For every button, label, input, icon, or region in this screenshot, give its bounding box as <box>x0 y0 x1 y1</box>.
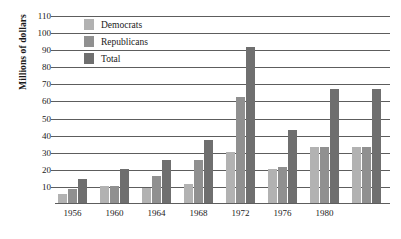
bar-group <box>58 16 87 203</box>
bar-republicans <box>152 176 161 203</box>
x-axis-label: 1956 <box>64 208 82 218</box>
y-axis-tick-label: 40 <box>42 131 51 141</box>
bar-total <box>372 89 381 204</box>
legend-swatch-democrats <box>84 19 94 30</box>
bar-total <box>204 140 213 203</box>
x-axis-label: 1972 <box>232 208 250 218</box>
bar-total <box>246 47 255 203</box>
y-axis-tick-label: 20 <box>42 165 51 175</box>
bar-group <box>184 16 213 203</box>
y-axis-tick-label: 10 <box>42 182 51 192</box>
bar-democrats <box>184 184 193 203</box>
x-axis-label: 1976 <box>274 208 292 218</box>
x-axis-labels: 1956196019641968197219761980 <box>55 208 390 224</box>
x-axis-line <box>55 203 390 204</box>
legend-item-democrats: Democrats <box>84 19 148 30</box>
bar-democrats <box>226 152 235 203</box>
bar-republicans <box>68 189 77 203</box>
bar-total <box>120 169 129 203</box>
bar-republicans <box>236 97 245 203</box>
bar-republicans <box>362 147 371 203</box>
bar-democrats <box>142 188 151 203</box>
x-axis-label: 1964 <box>148 208 166 218</box>
y-axis-title: Millions of dollars <box>18 0 28 112</box>
legend-item-republicans: Republicans <box>84 36 148 47</box>
y-axis-tick-label: 70 <box>42 79 51 89</box>
y-axis-tick-label: 80 <box>42 62 51 72</box>
bar-republicans <box>320 147 329 203</box>
legend-label: Republicans <box>101 37 148 47</box>
bar-democrats <box>268 169 277 203</box>
legend-swatch-total <box>84 53 94 64</box>
bar-republicans <box>194 160 203 203</box>
x-axis-label: 1968 <box>190 208 208 218</box>
bar-total <box>330 89 339 204</box>
bar-group <box>352 16 381 203</box>
bar-democrats <box>100 186 109 203</box>
x-axis-label: 1980 <box>316 208 334 218</box>
bar-group <box>310 16 339 203</box>
legend-item-total: Total <box>84 53 148 64</box>
legend-label: Democrats <box>101 20 142 30</box>
y-axis-tick-label: 30 <box>42 148 51 158</box>
legend-swatch-republicans <box>84 36 94 47</box>
bar-republicans <box>278 167 287 203</box>
y-axis-tick-label: 60 <box>42 96 51 106</box>
bar-chart: Millions of dollars 10203040506070809010… <box>0 0 401 239</box>
bar-republicans <box>110 186 119 203</box>
legend-label: Total <box>101 54 120 64</box>
y-axis-tick-label: 100 <box>38 28 52 38</box>
bar-total <box>288 130 297 203</box>
legend: DemocratsRepublicansTotal <box>84 19 148 64</box>
bar-democrats <box>58 194 67 203</box>
bar-democrats <box>310 147 319 203</box>
x-axis-label: 1960 <box>106 208 124 218</box>
bar-total <box>162 160 171 203</box>
y-axis-tick-label: 110 <box>38 11 51 21</box>
bar-group <box>268 16 297 203</box>
bar-total <box>78 179 87 203</box>
bar-democrats <box>352 147 361 203</box>
y-axis-tick-label: 50 <box>42 114 51 124</box>
bar-group <box>226 16 255 203</box>
y-axis-tick-label: 90 <box>42 45 51 55</box>
